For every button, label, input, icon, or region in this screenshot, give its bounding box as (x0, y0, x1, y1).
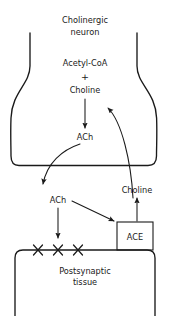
postsynaptic-label-line1: Postsynaptic (59, 266, 111, 276)
diagram-canvas: Cholinergic neuron Acetyl-CoA + Choline … (0, 0, 170, 316)
neuron-title-line1: Cholinergic (62, 15, 108, 25)
ach-cleft-label: ACh (50, 195, 66, 205)
cholinergic-synapse-diagram: Cholinergic neuron Acetyl-CoA + Choline … (0, 0, 170, 316)
acetyl-coa-label: Acetyl-CoA (63, 58, 108, 68)
release-arrow (43, 144, 80, 184)
ach-presynaptic-label: ACh (77, 132, 93, 142)
presynaptic-neuron-outline (11, 33, 157, 166)
choline-cleft-label: Choline (122, 185, 153, 195)
ace-label: ACE (127, 232, 143, 242)
postsynaptic-label-line2: tissue (73, 277, 97, 287)
hydrolysis-arrow (72, 201, 114, 221)
neuron-title-line2: neuron (71, 27, 100, 37)
choline-presynaptic-label: Choline (70, 85, 101, 95)
ace-enzyme-box: ACE (117, 222, 153, 250)
plus-sign-label: + (81, 71, 89, 82)
